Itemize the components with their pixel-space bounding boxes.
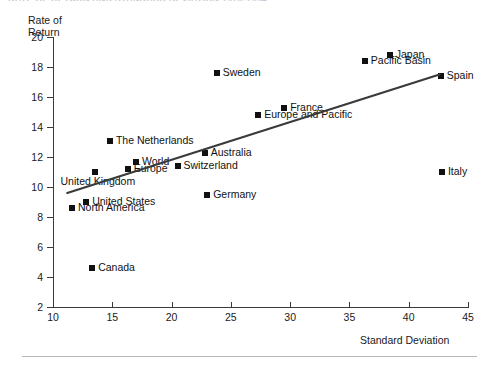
x-tick-mark	[53, 302, 54, 308]
data-point-marker	[214, 70, 220, 76]
data-point-marker	[255, 112, 261, 118]
y-tick-label: 4	[13, 271, 43, 283]
data-point-marker	[439, 169, 445, 175]
y-axis-line	[53, 37, 54, 308]
data-point-marker	[83, 199, 89, 205]
data-point-label: Spain	[447, 70, 474, 81]
data-point-marker	[133, 159, 139, 165]
y-tick-mark	[47, 217, 53, 218]
x-axis-line	[53, 307, 469, 308]
y-tick-label: 10	[13, 181, 43, 193]
x-tick-label: 35	[334, 311, 364, 323]
x-tick-label: 40	[394, 311, 424, 323]
x-tick-label: 10	[38, 311, 68, 323]
data-point-label: Sweden	[223, 67, 261, 78]
x-tick-label: 20	[157, 311, 187, 323]
data-point-marker	[362, 58, 368, 64]
y-tick-label: 20	[13, 31, 43, 43]
data-point-label: Canada	[98, 262, 135, 273]
y-tick-mark	[47, 187, 53, 188]
data-point-label: United Kingdom	[61, 176, 136, 187]
data-point-label: United States	[92, 196, 155, 207]
data-point-label: Switzerland	[184, 160, 238, 171]
data-point-marker	[438, 73, 444, 79]
data-point-label: Australia	[211, 147, 252, 158]
y-tick-label: 8	[13, 211, 43, 223]
data-point-label: Germany	[213, 189, 256, 200]
x-tick-mark	[409, 302, 410, 308]
x-tick-label: 15	[97, 311, 127, 323]
x-tick-mark	[172, 302, 173, 308]
y-tick-mark	[47, 37, 53, 38]
data-point-label: The Netherlands	[116, 135, 194, 146]
clipped-chart-title: RATE OF RETURN AND STANDARD DEVIATION 19…	[8, 0, 267, 1]
y-tick-label: 16	[13, 91, 43, 103]
x-tick-label: 25	[216, 311, 246, 323]
x-tick-label: 45	[453, 311, 483, 323]
data-point-label: World	[142, 156, 169, 167]
y-tick-mark	[47, 127, 53, 128]
x-tick-mark	[112, 302, 113, 308]
data-point-marker	[125, 166, 131, 172]
data-point-label: Japan	[396, 49, 425, 60]
y-tick-label: 6	[13, 241, 43, 253]
y-tick-mark	[47, 157, 53, 158]
y-axis-title-line1: Rate of	[28, 14, 62, 26]
data-point-marker	[175, 163, 181, 169]
data-point-marker	[107, 138, 113, 144]
y-tick-label: 18	[13, 61, 43, 73]
x-axis-title: Standard Deviation	[360, 334, 449, 346]
y-tick-mark	[47, 247, 53, 248]
data-point-marker	[69, 205, 75, 211]
y-tick-mark	[47, 277, 53, 278]
y-tick-mark	[47, 97, 53, 98]
data-point-marker	[202, 150, 208, 156]
x-tick-label: 30	[275, 311, 305, 323]
data-point-label: France	[290, 102, 323, 113]
x-tick-mark	[349, 302, 350, 308]
y-tick-label: 14	[13, 121, 43, 133]
data-point-label: Italy	[448, 166, 467, 177]
footer-divider	[22, 356, 477, 357]
data-point-marker	[89, 265, 95, 271]
y-tick-label: 12	[13, 151, 43, 163]
x-tick-mark	[290, 302, 291, 308]
data-point-marker	[281, 105, 287, 111]
x-tick-mark	[468, 302, 469, 308]
y-tick-mark	[47, 67, 53, 68]
data-point-marker	[387, 52, 393, 58]
x-tick-mark	[231, 302, 232, 308]
data-point-marker	[204, 192, 210, 198]
scatter-chart-figure: RATE OF RETURN AND STANDARD DEVIATION 19…	[0, 0, 492, 366]
